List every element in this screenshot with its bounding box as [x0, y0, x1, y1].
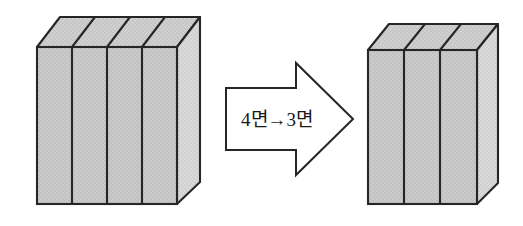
four-panel-box-side-face: [177, 17, 200, 204]
three-panel-box-front-face: [368, 50, 477, 204]
four-panel-box: [37, 17, 200, 204]
three-panel-box-side-face: [477, 24, 498, 204]
panel-transformation-diagram: 4면→3면: [0, 0, 523, 226]
transformation-arrow: 4면→3면: [226, 63, 353, 175]
diagram-canvas: 4면→3면: [0, 0, 523, 226]
three-panel-box: [368, 24, 498, 204]
three-panel-box-top-face: [368, 24, 498, 50]
transformation-arrow-label: 4면→3면: [241, 109, 313, 130]
